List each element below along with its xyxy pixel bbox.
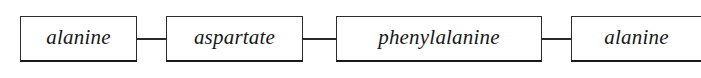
chain-connector-1 <box>137 38 166 40</box>
chain-node-phenylalanine: phenylalanine <box>336 16 542 62</box>
chain-container: alanine aspartate phenylalanine alanine <box>20 16 701 62</box>
chain-node-aspartate: aspartate <box>166 16 303 62</box>
chain-node-alanine-1: alanine <box>20 16 137 62</box>
chain-node-label: phenylalanine <box>378 27 500 48</box>
chain-connector-2 <box>303 38 336 40</box>
chain-node-label: alanine <box>46 27 110 48</box>
chain-node-alanine-2: alanine <box>571 16 701 62</box>
chain-connector-3 <box>542 38 571 40</box>
chain-node-label: alanine <box>604 27 668 48</box>
chain-node-label: aspartate <box>194 27 275 48</box>
